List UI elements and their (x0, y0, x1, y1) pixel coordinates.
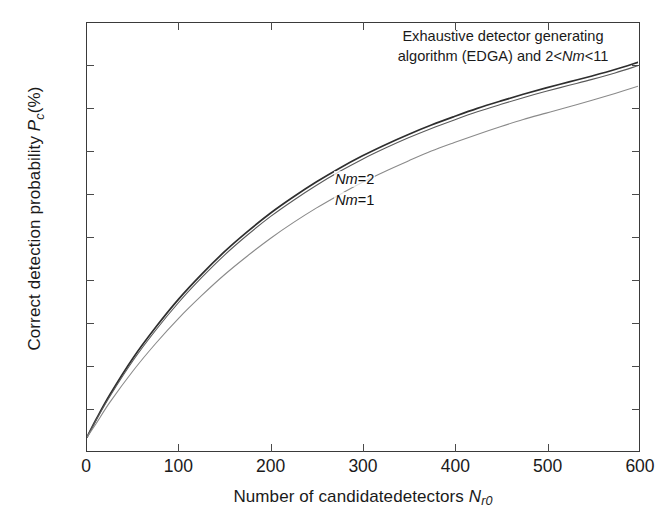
x-tick-mark-top (271, 22, 272, 30)
y-tick-mark-right (632, 366, 640, 367)
annotation-line-1: Exhaustive detector generating (402, 28, 603, 44)
x-tick-mark-top (178, 22, 179, 30)
y-tick-mark (86, 280, 94, 281)
x-tick-label: 100 (138, 456, 218, 477)
x-axis-symbol: N (469, 487, 481, 506)
y-tick-mark (86, 65, 94, 66)
y-axis-title: Correct detection probability Pc(%) (25, 9, 46, 429)
annotation-line-2-post: <11 (585, 48, 609, 64)
x-tick-label: 500 (508, 456, 588, 477)
curve-series-3 (87, 86, 638, 437)
x-tick-label: 0 (46, 456, 126, 477)
y-tick-mark (86, 151, 94, 152)
y-tick-mark-right (632, 323, 640, 324)
y-tick-mark-right (632, 194, 640, 195)
curve-label-nm2: Nm=2 (334, 171, 375, 187)
x-tick-mark (178, 444, 179, 452)
curve-label-nm2-symbol: Nm (335, 171, 358, 187)
annotation-line-2-pre: algorithm (EDGA) and 2< (398, 48, 562, 64)
y-tick-mark-right (632, 280, 640, 281)
y-axis-title-text: Correct detection probability (25, 131, 44, 350)
x-tick-mark-top (363, 22, 364, 30)
x-tick-label: 300 (323, 456, 403, 477)
curve-series-2 (87, 66, 638, 437)
x-tick-mark (548, 444, 549, 452)
curve-series-1 (87, 62, 638, 437)
plot-area (86, 22, 640, 452)
y-tick-mark (86, 366, 94, 367)
y-tick-mark-right (632, 237, 640, 238)
annotation-line-2-symbol: Nm (562, 48, 585, 64)
curve-label-nm2-value: =2 (358, 171, 375, 187)
y-tick-mark (86, 108, 94, 109)
y-tick-mark (86, 409, 94, 410)
x-axis-title-text: Number of candidatedetectors (233, 487, 468, 506)
y-axis-units: (%) (25, 87, 44, 114)
curve-group (87, 23, 638, 450)
y-tick-mark-right (632, 409, 640, 410)
x-tick-mark (271, 444, 272, 452)
x-axis-title: Number of candidatedetectors Nr0 (86, 487, 640, 508)
y-tick-mark (86, 237, 94, 238)
x-tick-mark (455, 444, 456, 452)
y-axis-symbol: P (25, 120, 44, 131)
y-tick-mark (86, 323, 94, 324)
x-tick-label: 200 (231, 456, 311, 477)
x-tick-label: 600 (600, 456, 663, 477)
chart-figure: Correct detection probability Pc(%) Numb… (0, 0, 663, 523)
x-axis-subscript: r0 (481, 494, 492, 508)
x-tick-mark (363, 444, 364, 452)
y-tick-mark-right (632, 108, 640, 109)
curve-label-nm1-value: =1 (358, 192, 375, 208)
chart-annotation: Exhaustive detector generating algorithm… (372, 27, 634, 67)
y-tick-mark-right (632, 151, 640, 152)
curve-label-nm1: Nm=1 (334, 192, 375, 208)
y-axis-subscript: c (33, 113, 47, 119)
x-tick-label: 400 (415, 456, 495, 477)
y-tick-mark (86, 194, 94, 195)
curve-label-nm1-symbol: Nm (335, 192, 358, 208)
